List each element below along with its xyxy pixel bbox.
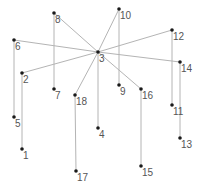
edge-3-12: [98, 30, 172, 52]
node-10[interactable]: 10: [117, 7, 131, 21]
node-16[interactable]: 16: [139, 87, 153, 101]
node-14[interactable]: 14: [178, 60, 192, 74]
edge-3-8: [54, 13, 98, 52]
node-label: 9: [120, 86, 126, 97]
node-label: 11: [173, 106, 184, 117]
node-label: 14: [181, 63, 193, 74]
edge-3-6: [14, 40, 98, 52]
edge-3-14: [98, 52, 180, 62]
node-label: 5: [15, 118, 21, 129]
node-label: 3: [99, 53, 105, 64]
node-label: 1: [23, 150, 29, 161]
node-9[interactable]: 9: [117, 83, 126, 97]
node-label: 15: [142, 167, 154, 178]
node-label: 10: [120, 10, 132, 21]
node-label: 17: [77, 172, 89, 183]
node-5[interactable]: 5: [12, 115, 21, 129]
node-13[interactable]: 13: [178, 136, 192, 150]
node-11[interactable]: 11: [170, 103, 184, 117]
edge-3-2: [22, 52, 98, 73]
network-diagram: 123456789101112131415161718: [0, 0, 201, 189]
node-label: 6: [15, 41, 21, 52]
node-15[interactable]: 15: [139, 164, 153, 178]
node-label: 16: [142, 90, 154, 101]
node-label: 18: [76, 96, 88, 107]
edge-3-10: [98, 9, 119, 52]
node-12[interactable]: 12: [170, 28, 184, 42]
edge-3-18: [75, 52, 98, 95]
edges-layer: [14, 9, 180, 171]
node-label: 8: [55, 14, 61, 25]
node-1[interactable]: 1: [20, 147, 29, 161]
node-4[interactable]: 4: [96, 126, 105, 140]
node-7[interactable]: 7: [52, 87, 61, 101]
node-label: 4: [99, 129, 105, 140]
node-label: 7: [55, 90, 61, 101]
nodes-layer: 123456789101112131415161718: [12, 7, 192, 183]
node-label: 2: [23, 74, 29, 85]
node-17[interactable]: 17: [74, 169, 88, 183]
node-label: 13: [181, 139, 193, 150]
node-18[interactable]: 18: [73, 93, 87, 107]
node-label: 12: [173, 31, 185, 42]
